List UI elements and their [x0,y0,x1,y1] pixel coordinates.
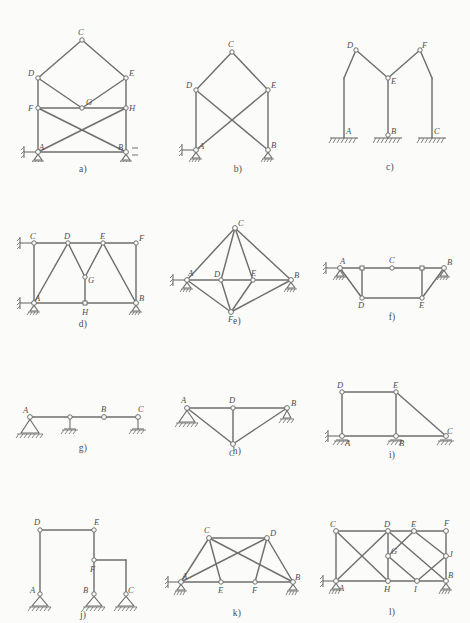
panel-d-drawing: C D E F G A H B [8,225,158,325]
node-label: D [336,380,344,390]
support-b-roller [439,583,452,594]
support-a-link [179,144,194,156]
node-label: E [390,76,397,86]
node-label: B [139,293,144,303]
node-label: G [86,97,92,107]
panel-b-drawing: C D E A B [168,30,308,162]
node-label: D [63,231,71,241]
node-label: D [185,80,193,90]
support-b-fixed [373,133,402,143]
node-label: A [22,405,29,415]
panel-g-drawing: A B C [8,395,158,465]
node-label: B [391,126,396,136]
node-label: F [421,40,428,50]
node-label: C [138,404,144,414]
node-label: B [83,585,88,595]
node-label: E [93,517,100,527]
support-c-fixed [417,138,446,143]
node-label: A [29,585,36,595]
panel-caption-f: f) [318,312,466,322]
node-label: D [228,395,236,405]
panel-k: C D A E F B k) [163,520,311,615]
node-label: B [294,270,299,280]
node-label: E [270,80,277,90]
node-label: C [128,585,134,595]
node-label: B [448,570,453,580]
node-label: A [345,126,352,136]
panel-caption-h: h) [163,446,311,456]
support-a-roller [333,270,346,280]
node-label: A [344,438,351,448]
support-b-roller [129,305,142,315]
node-label: B [271,140,276,150]
node-label: G [88,275,94,285]
support-a-pin [16,419,43,438]
support-a-roller [31,154,44,162]
panel-i: D E A B C i) [318,378,466,468]
node-label: B [447,257,452,267]
node-label: F [443,518,450,528]
node-label: E [250,268,257,278]
panel-h-drawing: A D B C [163,388,311,468]
node-label: C [434,126,440,136]
panel-caption-b: b) [168,164,308,174]
figure-sheet: C D E F H G A B a) [0,0,470,623]
support-b-roller [261,152,274,162]
node-label: C [238,218,244,228]
support-a-roller [189,152,202,162]
support-a-link [21,146,36,158]
node-label: B [295,572,300,582]
panel-j: D E F A B C j) [8,512,158,617]
node-label: F [89,564,96,574]
node-label: E [128,68,135,78]
panel-a-drawing: C D E F H G A B [8,22,158,162]
panel-j-drawing: D E F A B C [8,512,158,617]
node-label: C [447,426,453,436]
panel-caption-g: g) [8,443,158,453]
panel-k-drawing: C D A E F B [163,520,311,615]
support-c-roller [129,419,146,434]
panel-caption-a: a) [8,164,158,174]
panel-c: D F E A B C c) [318,28,462,160]
node-label: D [33,517,41,527]
panel-g: A B C g) [8,395,158,465]
support-a-roller [174,584,187,595]
panel-l: C D E F G J A H I B l) [318,515,466,615]
support-b-roller [284,282,297,292]
support-a-link [170,274,185,286]
node-label: C [78,27,84,37]
node-label: D [383,519,391,529]
panel-caption-l: l) [318,607,466,617]
node-label: A [180,395,187,405]
support-a-link [17,297,32,309]
node-label: B [118,142,123,152]
node-label: H [81,307,89,317]
node-label: B [291,398,296,408]
panel-caption-d: d) [8,319,158,329]
node-label: J [449,549,454,559]
node-label: H [128,103,136,113]
node-label: F [138,233,145,243]
node-label: A [198,141,205,151]
node-label: C [228,39,234,49]
node-label: F [27,103,34,113]
support-a-link [323,262,338,274]
node-label: B [101,404,106,414]
node-label: F [251,585,258,595]
node-label: E [418,300,425,310]
panel-a: C D E F H G A B a) [8,22,158,162]
node-label: C [204,525,210,535]
node-label: C [389,255,395,265]
node-label: C [30,231,36,241]
node-label: A [187,268,194,278]
panel-d: C D E F G A H B d) [8,225,158,325]
panel-caption-j: j) [8,610,158,620]
node-label: B [399,438,404,448]
support-a-fixed [329,138,358,143]
panel-h: A D B C h) [163,388,311,468]
node-label: D [213,269,221,279]
node-label: E [410,519,417,529]
node-label: G [391,546,397,556]
support-a-link [165,576,179,588]
support-b-roller [286,584,299,595]
